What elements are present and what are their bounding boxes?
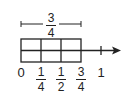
numerator: 3	[73, 66, 89, 78]
numerator: 1	[53, 66, 69, 78]
numerator: 3	[43, 12, 59, 24]
bracket-fraction-label: 3 4	[43, 12, 59, 39]
numerator: 1	[33, 66, 49, 78]
axis-label-3-4: 3 4	[73, 66, 89, 93]
axis-label-1-4: 1 4	[33, 66, 49, 93]
denominator: 4	[73, 81, 89, 93]
denominator: 4	[33, 81, 49, 93]
axis-label-0: 0	[13, 66, 29, 79]
number-line-axis	[81, 46, 114, 55]
axis-label-1-2: 1 2	[53, 66, 69, 93]
denominator: 4	[43, 27, 59, 39]
number-line-diagram	[0, 0, 139, 97]
fraction-strip	[21, 39, 81, 62]
axis-label-1: 1	[93, 66, 109, 79]
denominator: 2	[53, 81, 69, 93]
